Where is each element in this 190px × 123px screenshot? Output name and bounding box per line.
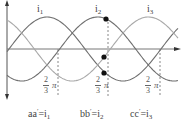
coil-name: cc	[130, 108, 139, 119]
curve-label-sub: 1	[40, 8, 44, 16]
coil-name: aa	[28, 108, 37, 119]
marker-dot-i2-peak	[103, 16, 108, 21]
coil-sub: 1	[47, 113, 51, 121]
three-phase-diagram	[0, 0, 190, 123]
marker-dot-mid	[101, 54, 106, 59]
coil-label-bb: bb′=i2	[80, 107, 103, 121]
coil-eq: =i	[92, 108, 100, 119]
fraction-numerator: 2	[95, 76, 101, 84]
fraction-denominator: 3	[95, 87, 101, 95]
pi-symbol: π	[154, 81, 159, 90]
phase-fraction-1: 2 3 π	[43, 76, 49, 95]
marker-dot-low	[101, 70, 106, 75]
coil-label-aa: aa′=i1	[28, 107, 50, 121]
coil-eq: =i	[140, 108, 148, 119]
curve-label-sub: 2	[98, 8, 102, 16]
axis-arrow-up-icon	[5, 0, 9, 6]
fraction-numerator: 2	[43, 76, 49, 84]
fraction-denominator: 3	[145, 87, 151, 95]
curve-label-i3: i3	[147, 4, 153, 16]
pi-symbol: π	[52, 81, 57, 90]
coil-name: bb	[80, 108, 90, 119]
coil-label-cc: cc′=i3	[130, 107, 152, 121]
coil-sub: 2	[100, 113, 104, 121]
coil-eq: =i	[38, 108, 46, 119]
phase-fraction-3: 2 3 π	[145, 76, 151, 95]
curve-label-i2: i2	[95, 4, 101, 16]
axis-arrow-down-icon	[5, 94, 9, 100]
fraction-denominator: 3	[43, 87, 49, 95]
axis-arrow-right-icon	[174, 47, 181, 51]
phase-fraction-2: 2 3 π	[95, 76, 101, 95]
curve-label-sub: 3	[150, 8, 154, 16]
coil-sub: 3	[149, 113, 153, 121]
pi-symbol: π	[104, 81, 109, 90]
curve-label-i1: i1	[37, 4, 43, 16]
fraction-numerator: 2	[145, 76, 151, 84]
